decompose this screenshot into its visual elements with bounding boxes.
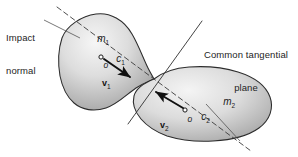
body-2-velocity-label: v2 [150,110,169,143]
body-2-mass-subscript: 2 [231,102,235,109]
body-2-contact-symbol: o [187,114,192,124]
impact-normal-label-line2: normal [6,66,36,77]
impact-diagram-figure: Impact normal Common tangential plane m1… [0,0,298,157]
tangent-plane-label-line2: plane [196,83,296,94]
body-1-velocity-subscript: 1 [107,83,111,90]
body-1-centroid-subscript: 1 [121,59,125,66]
body-2-centroid-label: c2 [190,99,210,135]
body-2-velocity-subscript: 2 [165,125,169,132]
body-1-velocity-label: v1 [92,68,111,101]
impact-normal-label: Impact normal [6,11,36,98]
impact-normal-label-line1: Impact [6,33,36,44]
body-2-contact-point-label: o [178,105,192,134]
common-tangential-plane-label: Common tangential plane [196,28,296,115]
tangent-plane-label-line1: Common tangential [196,50,296,61]
body-2-centroid-subscript: 2 [206,117,210,124]
body-2-mass-label: m2 [212,84,235,120]
